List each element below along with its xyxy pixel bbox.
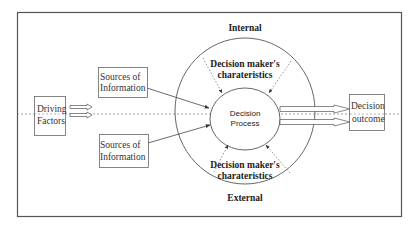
sources-top-line1: Sources of [100,72,140,83]
decision-outcome-box [350,95,385,131]
decision-outcome-line2: outcome [352,114,385,125]
internal-label: Internal [222,23,268,34]
sources-top-line2: Information [100,83,145,94]
arrow-sources-top-to-process [147,88,209,108]
process-label-line1: Decision [220,109,270,118]
sources-bottom-line1: Sources of [100,140,140,151]
sources-bottom-line2: Information [100,152,145,163]
driving-factors-hollow-arrows [70,104,92,118]
characteristics-top-line1: Decision maker's [199,59,291,70]
decision-outcome-line1: Decision [351,101,385,112]
process-label-line2: Process [220,119,270,128]
characteristics-bottom-line1: Decision maker's [199,160,291,171]
driving-factors-line1: Driving [37,104,67,115]
characteristics-bottom-line2: charateristics [199,171,291,182]
external-label: External [222,193,268,204]
arrow-sources-bottom-to-process [148,125,210,143]
driving-factors-line2: Factors [37,116,65,127]
characteristics-top-line2: charateristics [199,70,291,81]
